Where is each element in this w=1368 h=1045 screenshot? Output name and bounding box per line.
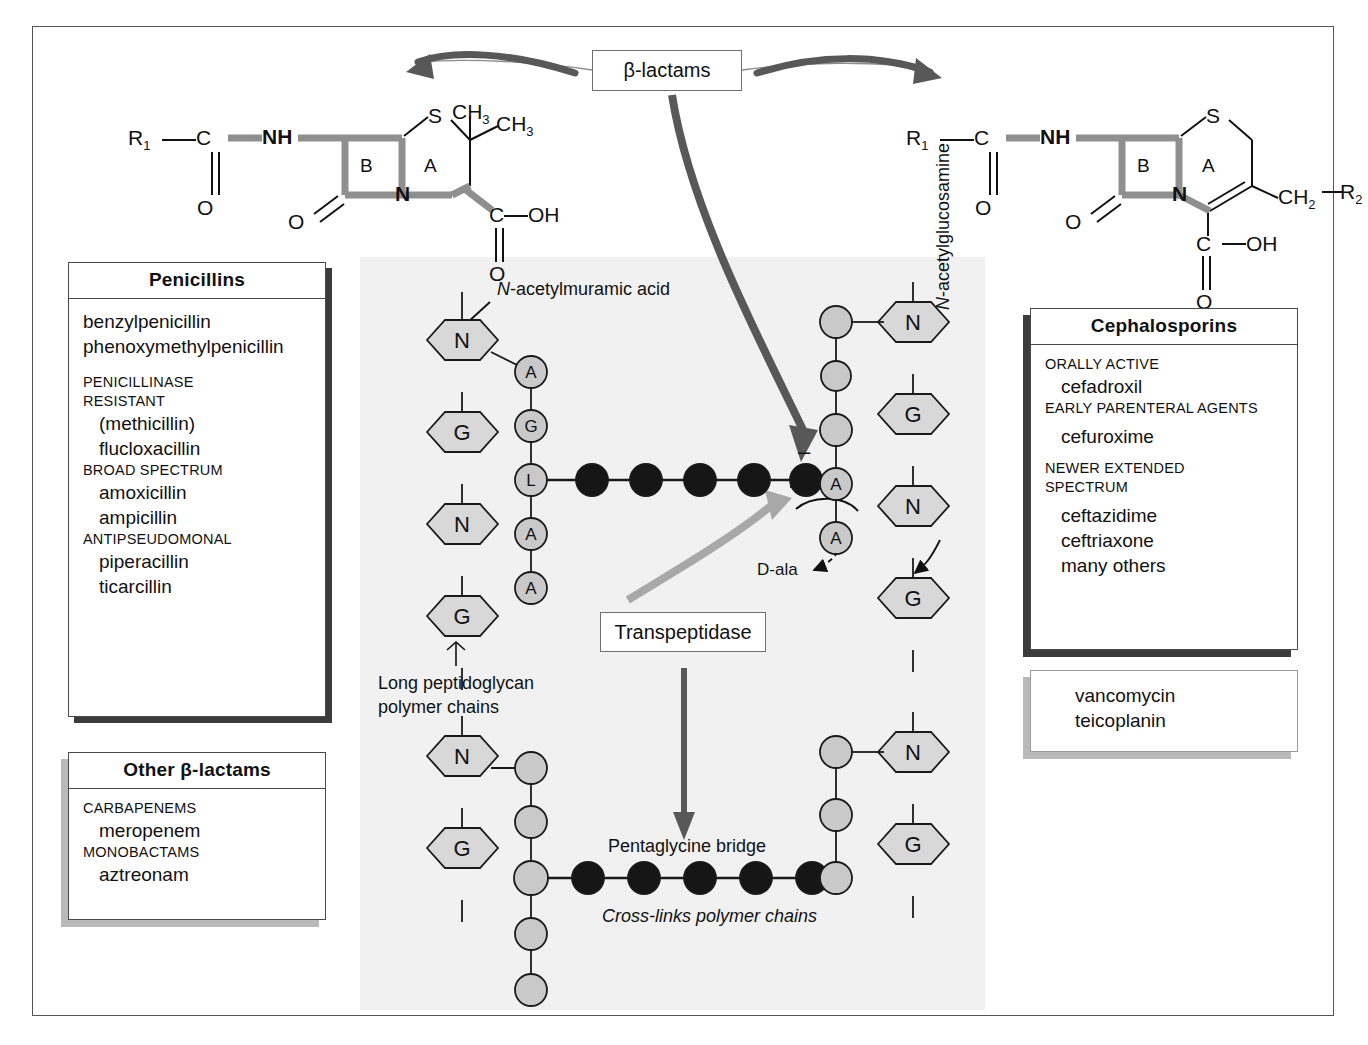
- drug-name: flucloxacillin: [83, 436, 311, 461]
- pen-c-acid-label: C: [489, 203, 504, 227]
- long-chain-label-line2: polymer chains: [378, 696, 499, 719]
- ceph-c-label: C: [974, 126, 989, 150]
- list-spacer: [1045, 449, 1283, 459]
- nag-label-rest: -acetylglucosamine: [933, 143, 953, 297]
- penicillins-list: benzylpenicillinphenoxymethylpenicillinP…: [69, 299, 325, 607]
- penicillins-title: Penicillins: [69, 263, 325, 299]
- pen-ch3-a-label: CH3: [452, 100, 490, 127]
- glycopeptides-card: vancomycinteicoplanin: [1030, 670, 1298, 752]
- penicillins-card: Penicillins benzylpenicillinphenoxymethy…: [68, 262, 326, 717]
- drug-name: cefuroxime: [1045, 424, 1283, 449]
- list-spacer: [83, 359, 311, 373]
- ceph-ring-b-label: B: [1137, 155, 1150, 177]
- pen-ring-a-label: A: [424, 155, 437, 177]
- glycopeptides-list: vancomycinteicoplanin: [1031, 671, 1297, 741]
- ceph-r1-label: R1: [906, 126, 928, 153]
- pen-ch3-b-label: CH3: [496, 112, 534, 139]
- drug-name: ampicillin: [83, 505, 311, 530]
- drug-name: vancomycin: [1059, 683, 1283, 708]
- pen-ring-o-label: O: [288, 210, 304, 234]
- dala-label: D-ala: [757, 558, 798, 581]
- pen-n-label: N: [395, 182, 410, 206]
- inhibition-minus-sign: –: [798, 440, 810, 463]
- ceph-r2-label: R2: [1340, 180, 1362, 207]
- pen-r1-label: R1: [128, 126, 150, 153]
- pen-c-label: C: [196, 126, 211, 150]
- ceph-c-acid-label: C: [1196, 232, 1211, 256]
- pen-oh-label: OH: [528, 203, 560, 227]
- drug-name: aztreonam: [83, 862, 311, 887]
- cephalosporins-list: ORALLY ACTIVEcefadroxilEARLY PARENTERAL …: [1031, 345, 1297, 586]
- drug-name: meropenem: [83, 818, 311, 843]
- drug-category-label: BROAD SPECTRUM: [83, 461, 311, 480]
- cephalosporins-card: Cephalosporins ORALLY ACTIVEcefadroxilEA…: [1030, 308, 1298, 650]
- drug-name: benzylpenicillin: [83, 309, 311, 334]
- drug-name: ceftriaxone: [1045, 528, 1283, 553]
- drug-name: phenoxymethylpenicillin: [83, 334, 311, 359]
- betalactams-title-box: β-lactams: [592, 50, 742, 91]
- diagram-root: N G N G N G N G N G N G A G L A A A A: [0, 0, 1368, 1045]
- pen-nh-label: NH: [262, 125, 292, 149]
- drug-name: piperacillin: [83, 549, 311, 574]
- drug-name: cefadroxil: [1045, 374, 1283, 399]
- ceph-s-label: S: [1206, 104, 1220, 128]
- drug-category-label: NEWER EXTENDED: [1045, 459, 1283, 478]
- transpeptidase-box: Transpeptidase: [600, 612, 766, 652]
- ceph-ring-o-label: O: [1065, 210, 1081, 234]
- drug-category-label: EARLY PARENTERAL AGENTS: [1045, 399, 1283, 418]
- other-betalactams-title: Other β-lactams: [69, 753, 325, 789]
- pen-s-label: S: [428, 104, 442, 128]
- ceph-ch2-label: CH2: [1278, 185, 1316, 212]
- drug-category-label: CARBAPENEMS: [83, 799, 311, 818]
- other-betalactams-list: CARBAPENEMSmeropenemMONOBACTAMSaztreonam: [69, 789, 325, 895]
- nam-label: N-acetylmuramic acid: [497, 278, 670, 301]
- pentaglycine-label: Pentaglycine bridge: [608, 835, 766, 858]
- ceph-nh-label: NH: [1040, 125, 1070, 149]
- drug-category-label: PENICILLINASE: [83, 373, 311, 392]
- transpeptidase-label: Transpeptidase: [614, 621, 751, 644]
- cephalosporins-title: Cephalosporins: [1031, 309, 1297, 345]
- betalactams-title-label: β-lactams: [623, 59, 710, 82]
- ceph-ring-a-label: A: [1202, 155, 1215, 177]
- drug-category-label: ANTIPSEUDOMONAL: [83, 530, 311, 549]
- drug-category-label: RESISTANT: [83, 392, 311, 411]
- drug-category-label: SPECTRUM: [1045, 478, 1283, 497]
- other-betalactams-card: Other β-lactams CARBAPENEMSmeropenemMONO…: [68, 752, 326, 920]
- drug-category-label: MONOBACTAMS: [83, 843, 311, 862]
- ceph-oh-label: OH: [1246, 232, 1278, 256]
- ceph-o-left-label: O: [975, 196, 991, 220]
- drug-category-label: ORALLY ACTIVE: [1045, 355, 1283, 374]
- drug-name: many others: [1045, 553, 1283, 578]
- pen-ring-b-label: B: [360, 155, 373, 177]
- drug-name: ceftazidime: [1045, 503, 1283, 528]
- drug-name: amoxicillin: [83, 480, 311, 505]
- ceph-n-label: N: [1172, 182, 1187, 206]
- crosslink-label: Cross-links polymer chains: [602, 905, 817, 928]
- drug-name: (methicillin): [83, 411, 311, 436]
- nam-label-rest: -acetylmuramic acid: [510, 279, 670, 299]
- drug-name: ticarcillin: [83, 574, 311, 599]
- drug-name: teicoplanin: [1059, 708, 1283, 733]
- long-chain-label-line1: Long peptidoglycan: [378, 672, 534, 695]
- pen-o-left-label: O: [197, 196, 213, 220]
- nag-label: N-acetylglucosamine: [932, 143, 955, 310]
